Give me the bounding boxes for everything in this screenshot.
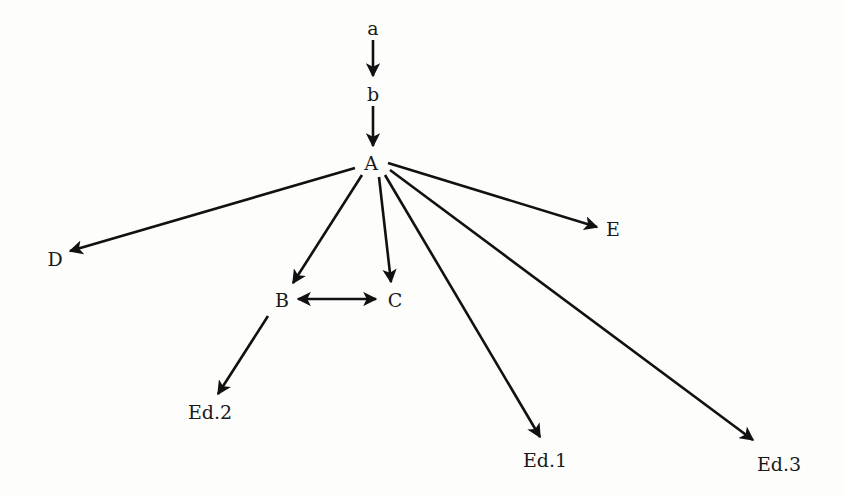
edge-A-Ed1	[385, 175, 540, 437]
edges-layer	[0, 0, 844, 495]
node-a: a	[367, 19, 378, 38]
node-E: E	[606, 220, 620, 239]
stemma-diagram: a b A D E B C Ed.2 Ed.1 Ed.3	[0, 0, 844, 495]
node-C: C	[388, 291, 403, 310]
edge-A-E	[388, 163, 597, 227]
edge-A-C	[379, 177, 391, 282]
node-D: D	[47, 250, 62, 269]
edge-B-Ed2	[218, 316, 268, 394]
node-ed1: Ed.1	[523, 451, 567, 470]
node-B: B	[275, 291, 289, 310]
node-ed2: Ed.2	[188, 403, 232, 422]
node-A: A	[364, 154, 378, 173]
edge-A-D	[70, 168, 355, 251]
edge-A-B	[293, 175, 362, 283]
edge-A-Ed3	[390, 170, 753, 440]
node-ed3: Ed.3	[757, 455, 801, 474]
node-b: b	[367, 85, 379, 104]
